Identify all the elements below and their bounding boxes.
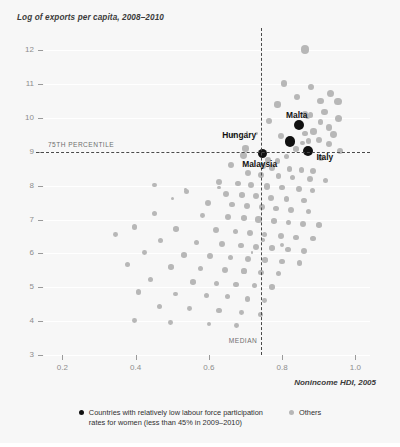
data-point bbox=[245, 296, 251, 302]
country-label-italy: Italy bbox=[316, 152, 333, 162]
data-point bbox=[229, 202, 235, 208]
y-tick-label: 10 bbox=[12, 113, 34, 122]
data-point bbox=[200, 213, 205, 218]
y-tick-mark bbox=[38, 84, 43, 85]
data-point bbox=[284, 154, 289, 159]
legend-light-dot-icon bbox=[289, 410, 294, 415]
legend-dark-dot-icon bbox=[79, 410, 84, 415]
data-point bbox=[334, 98, 342, 106]
data-point bbox=[330, 131, 337, 138]
data-point bbox=[278, 233, 284, 239]
data-point bbox=[228, 162, 234, 168]
data-point bbox=[323, 178, 328, 183]
data-point bbox=[316, 137, 322, 143]
data-point bbox=[253, 193, 259, 199]
gridline bbox=[44, 355, 370, 356]
data-point bbox=[132, 224, 137, 229]
data-point bbox=[287, 166, 293, 172]
data-point bbox=[310, 168, 316, 174]
data-point bbox=[264, 183, 270, 189]
data-point bbox=[205, 200, 211, 206]
y-tick-mark bbox=[38, 321, 43, 322]
country-label-malta: Malta bbox=[286, 110, 307, 120]
data-point bbox=[241, 268, 246, 273]
data-point bbox=[280, 243, 284, 247]
data-point bbox=[279, 259, 284, 264]
data-point bbox=[301, 45, 309, 53]
data-point bbox=[223, 191, 229, 197]
x-tick-label: 0.6 bbox=[194, 363, 224, 372]
data-point bbox=[194, 240, 200, 246]
data-point bbox=[284, 196, 290, 202]
data-point bbox=[269, 245, 275, 251]
y-tick-label: 9 bbox=[12, 147, 34, 156]
data-point bbox=[217, 186, 220, 189]
data-point bbox=[310, 188, 315, 193]
y-tick-mark bbox=[38, 287, 43, 288]
data-point bbox=[132, 318, 137, 323]
data-point bbox=[171, 197, 174, 200]
x-tick-label: 0.2 bbox=[47, 363, 77, 372]
data-point bbox=[307, 176, 313, 182]
data-point bbox=[310, 236, 316, 242]
data-point bbox=[297, 260, 303, 266]
data-point bbox=[168, 264, 174, 270]
data-point bbox=[253, 244, 259, 250]
y-tick-mark bbox=[38, 355, 43, 356]
data-point bbox=[318, 119, 323, 124]
legend-item: Countries with relatively low labour for… bbox=[79, 408, 263, 427]
data-point bbox=[327, 90, 334, 97]
data-point bbox=[262, 257, 268, 263]
data-point bbox=[308, 84, 314, 90]
median-reference-line bbox=[261, 28, 262, 355]
data-point bbox=[158, 238, 163, 243]
data-point bbox=[157, 304, 162, 309]
data-point bbox=[248, 182, 254, 188]
data-point bbox=[310, 128, 316, 134]
data-point bbox=[286, 220, 291, 225]
highlighted-data-point bbox=[303, 146, 313, 156]
data-point bbox=[300, 141, 305, 146]
data-point bbox=[113, 232, 118, 237]
chart-title: Log of exports per capita, 2008–2010 bbox=[17, 13, 164, 22]
x-tick-label: 0.8 bbox=[267, 363, 297, 372]
data-point bbox=[225, 294, 230, 299]
y-tick-mark bbox=[38, 186, 43, 187]
data-point bbox=[228, 255, 233, 260]
y-tick-label: 11 bbox=[12, 79, 34, 88]
y-tick-label: 4 bbox=[12, 316, 34, 325]
y-tick-label: 6 bbox=[12, 248, 34, 257]
data-point bbox=[225, 214, 231, 220]
x-tick-label: 1.0 bbox=[340, 363, 370, 372]
data-point bbox=[207, 322, 211, 326]
y-tick-mark bbox=[38, 220, 43, 221]
data-point bbox=[268, 195, 274, 201]
data-point bbox=[245, 170, 251, 176]
data-point bbox=[238, 243, 243, 248]
data-point bbox=[247, 230, 253, 236]
data-point bbox=[239, 310, 244, 315]
data-point bbox=[173, 292, 178, 297]
gridline bbox=[44, 287, 370, 288]
data-point bbox=[152, 211, 157, 216]
data-point bbox=[299, 167, 304, 172]
data-point bbox=[273, 206, 279, 212]
chart-legend: Countries with relatively low labour for… bbox=[0, 408, 400, 427]
data-point bbox=[326, 141, 332, 147]
y-tick-label: 7 bbox=[12, 215, 34, 224]
legend-label: Countries with relatively low labour for… bbox=[89, 408, 263, 427]
data-point bbox=[262, 298, 267, 303]
gridline bbox=[44, 50, 370, 51]
data-point bbox=[239, 192, 245, 198]
data-point bbox=[244, 203, 250, 209]
x-axis-title: Nonincome HDI, 2005 bbox=[294, 378, 376, 387]
data-point bbox=[271, 218, 277, 224]
x-tick-mark bbox=[355, 355, 356, 360]
data-point bbox=[266, 118, 272, 124]
plot-area: 3456789101112 0.20.40.60.81.0 75TH PERCE… bbox=[44, 40, 370, 355]
y-tick-label: 3 bbox=[12, 350, 34, 359]
data-point bbox=[173, 226, 179, 232]
data-point bbox=[279, 185, 285, 191]
data-point bbox=[213, 227, 219, 233]
data-point bbox=[316, 222, 322, 228]
